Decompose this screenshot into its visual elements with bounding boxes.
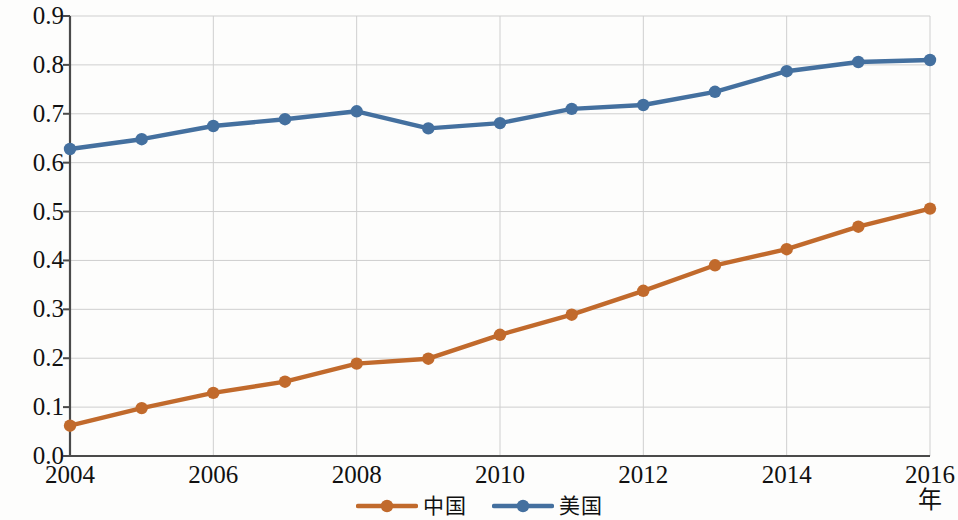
x-tick-label: 2014 [742,462,832,487]
legend-item[interactable]: 中国 [356,495,466,517]
legend-label: 美国 [559,495,602,517]
x-tick-label: 2006 [168,462,258,487]
x-tick-label: 2012 [598,462,688,487]
legend-swatch-icon [356,496,418,516]
x-tick-label: 2004 [25,462,115,487]
x-axis-tick-labels: 2004200620082010201220142016 [0,0,958,520]
line-chart: 科技竞争力 0.00.10.20.30.40.50.60.70.80.9 200… [0,0,958,520]
x-tick-label: 2016 [885,462,958,487]
legend-item[interactable]: 美国 [492,495,602,517]
x-tick-label: 2008 [312,462,402,487]
x-tick-label: 2010 [455,462,545,487]
legend-swatch-icon [492,496,554,516]
legend-label: 中国 [423,495,466,517]
chart-legend: 中国美国 [0,492,958,520]
